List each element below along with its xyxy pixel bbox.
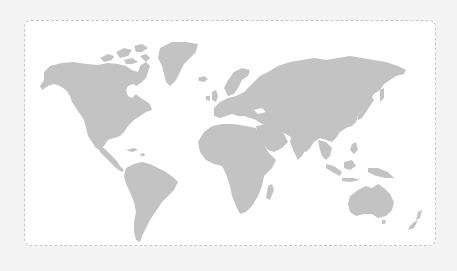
madagascar [266,184,274,200]
indonesia [326,160,360,182]
caribbean [126,148,145,156]
south-america [124,162,178,242]
new-guinea [368,168,394,178]
sakhalin [380,88,384,102]
tasmania [382,220,386,224]
north-america [40,62,152,150]
iceland [198,76,208,82]
philippines [350,142,358,154]
india [290,132,310,160]
australia [348,184,394,218]
southeast-asia [318,140,332,160]
central-america [98,146,124,172]
new-zealand [408,210,422,230]
greenland [158,42,198,86]
uk-ireland [206,90,218,102]
arctic-islands [100,44,150,64]
world-map [0,0,457,271]
